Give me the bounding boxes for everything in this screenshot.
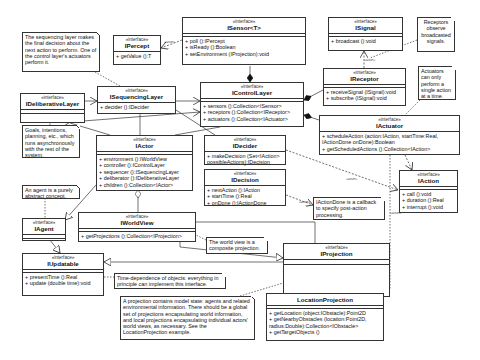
note-anchor-worldview [196, 235, 206, 240]
class-name: ISequencingLayer [100, 93, 173, 100]
operation: + onDone ():IActionDone [207, 200, 283, 206]
note-projection: A projection contains model state: agent… [120, 296, 255, 340]
class-isequencinglayer[interactable]: «interface»ISequencingLayer + decider ()… [97, 86, 176, 114]
edge-actuator-action [405, 155, 412, 170]
class-ipercept[interactable]: «interface»IPercept + getValue ():T [113, 35, 161, 65]
use-label: «use» [164, 39, 175, 44]
note-sequencing: The sequencing layer makes the final dec… [22, 32, 100, 72]
note-worldview: The world view is a composite projection… [206, 237, 268, 254]
class-name: IAgent [25, 225, 63, 232]
note-actuators: Actuators can only perform a single acti… [418, 66, 456, 100]
edge-control-receptor [304, 90, 323, 100]
note-time-dependence: Time-dependence of objects: everything i… [114, 273, 226, 289]
class-locationprojection[interactable]: LocationProjection + getLocation (object… [266, 293, 384, 341]
operation: + deliberator ():IDeliberativeLayer [99, 175, 190, 181]
operation: possibleActions):IDecision [207, 159, 283, 165]
class-name: IDeliberativeLayer [23, 100, 82, 107]
operation: + broadcast ():void [331, 38, 400, 44]
operation: + update (double time):void [25, 280, 101, 286]
note-goals: Goals, intentions, planning, etc., which… [22, 125, 80, 158]
class-isignal[interactable]: «interface»ISignal + broadcast ():void [328, 17, 403, 51]
class-icontrollayer[interactable]: «interface»IControlLayer + sensors ():Co… [200, 82, 304, 127]
class-name: IDecision [207, 176, 283, 183]
operation: + receptors ():Collection<IReceptor> [203, 109, 301, 115]
operation: + getScheduledActions ():Collection<IAct… [322, 146, 457, 152]
operation: + getProjections ():Collection<IProjecti… [81, 233, 193, 239]
class-iupdatable[interactable]: «interface»IUpdatable + presentTime ():R… [22, 253, 104, 296]
note-anchor-actuators [405, 100, 420, 115]
class-name: IActor [99, 142, 190, 149]
class-iaction[interactable]: «interface»IAction + call ():void + dura… [399, 170, 458, 213]
use-label: «use» [346, 176, 357, 181]
operation: + subscribe (ISignal):void [326, 95, 403, 101]
class-name: ISensor<T> [185, 24, 303, 31]
class-idecision[interactable]: «interface»IDecision + nextAction ():IAc… [204, 169, 286, 206]
operation: + getTargetObjects () [269, 329, 381, 335]
class-name: IActuator [322, 122, 457, 129]
class-name: IControlLayer [203, 89, 301, 96]
operation: + interrupt ():void [402, 204, 455, 210]
class-ideliberativelayer[interactable]: «interface»IDeliberativeLayer [20, 93, 85, 123]
class-iactor[interactable]: «interface»IActor + environment ():IWorl… [96, 135, 193, 191]
edge-control-actuator [304, 115, 319, 120]
note-actiondone: IActionDone is a callback to specify pos… [313, 197, 385, 220]
class-name: IPercept [116, 42, 158, 49]
class-name: IProjection [286, 250, 387, 257]
class-name: IDecider [207, 142, 283, 149]
use-label: «use» [299, 199, 310, 204]
operation: + actuators ():Collection<IActuator> [203, 116, 301, 122]
class-iactuator[interactable]: «interface»IActuator + scheduleAction (a… [319, 115, 460, 155]
operation: + decider ():IDecider [100, 104, 173, 110]
class-iprojection[interactable]: «interface»IProjection [283, 243, 390, 297]
class-iagent[interactable]: «interface»IAgent [22, 218, 66, 241]
operation: + getValue ():T [116, 53, 158, 59]
uml-class-diagram: «use» «use» «use» «use» «use» «use» The … [0, 0, 480, 360]
use-label: «use» [364, 57, 375, 62]
note-receptors: Receptors observe broadcasted signals. [417, 17, 455, 52]
note-agent: An agent is a purely abstract concept. [22, 185, 80, 199]
class-name: IAction [402, 177, 455, 184]
class-idecider[interactable]: «interface»IDecider + makeDecision (Set<… [204, 135, 286, 165]
class-ireceptor[interactable]: «interface»IReceptor + receiveSignal (IS… [323, 68, 406, 106]
operation: + setEnvironment (IProjection):void [185, 51, 303, 57]
class-iworldview[interactable]: «interface»IWorldView + getProjections (… [78, 212, 196, 242]
note-anchor-sequencing [95, 72, 120, 86]
class-isensor[interactable]: «interface»ISensor<T> + poll ():IPercept… [182, 17, 306, 65]
edge-decider-action [286, 150, 398, 190]
class-name: IReceptor [326, 75, 403, 82]
operation: + children ():Collection<IActor> [99, 182, 190, 188]
operation: + getNearbyObstacles (location:Point2D, [269, 316, 381, 322]
class-name: IWorldView [81, 219, 193, 226]
class-name: IUpdatable [25, 260, 101, 267]
class-name: ISignal [331, 24, 400, 31]
edge-agent-updatable [50, 240, 60, 253]
class-name: LocationProjection [269, 296, 381, 303]
